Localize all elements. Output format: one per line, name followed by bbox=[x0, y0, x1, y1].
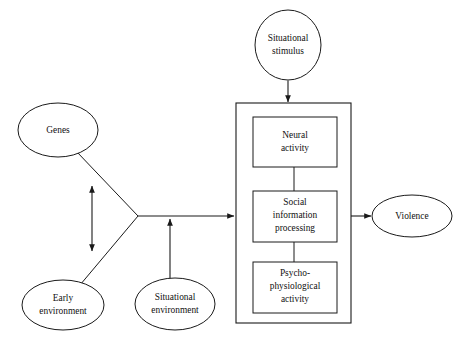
violence-label: Violence bbox=[395, 211, 428, 221]
social-information-processing-label-line1: Social bbox=[283, 197, 307, 207]
psycho-physiological-activity-label-line2: physiological bbox=[270, 281, 321, 291]
early-environment-label-line1: Early bbox=[53, 293, 74, 303]
situational-stimulus-label-line1: Situational bbox=[268, 33, 309, 43]
neural-activity-label-line1: Neural bbox=[282, 130, 308, 140]
diagram-root: Situational stimulus Genes Early environ… bbox=[0, 0, 464, 347]
situational-environment-ellipse bbox=[135, 278, 215, 330]
diagram-canvas: Situational stimulus Genes Early environ… bbox=[0, 0, 464, 347]
social-information-processing-label-line3: processing bbox=[275, 223, 315, 233]
node-violence[interactable]: Violence bbox=[372, 195, 452, 237]
early-environment-label-line2: environment bbox=[39, 306, 87, 316]
edge-early-environment-to-apex bbox=[80, 216, 138, 285]
psycho-physiological-activity-label-line3: activity bbox=[281, 294, 309, 304]
node-situational-environment[interactable]: Situational environment bbox=[135, 278, 215, 330]
neural-activity-box bbox=[253, 117, 337, 167]
node-situational-stimulus[interactable]: Situational stimulus bbox=[255, 10, 321, 80]
situational-stimulus-label-line2: stimulus bbox=[272, 46, 304, 56]
psycho-physiological-activity-label-line1: Psycho- bbox=[280, 268, 310, 278]
early-environment-ellipse bbox=[22, 280, 104, 330]
situational-environment-label-line1: Situational bbox=[155, 292, 196, 302]
situational-stimulus-ellipse bbox=[255, 10, 321, 80]
node-social-information-processing[interactable]: Social information processing bbox=[253, 191, 337, 242]
node-neural-activity[interactable]: Neural activity bbox=[253, 117, 337, 167]
node-genes[interactable]: Genes bbox=[18, 103, 98, 157]
edge-genes-to-apex bbox=[77, 152, 138, 216]
social-information-processing-label-line2: information bbox=[273, 210, 318, 220]
node-early-environment[interactable]: Early environment bbox=[22, 280, 104, 330]
situational-environment-label-line2: environment bbox=[151, 305, 199, 315]
genes-label: Genes bbox=[46, 125, 70, 135]
node-psycho-physiological-activity[interactable]: Psycho- physiological activity bbox=[253, 262, 337, 313]
neural-activity-label-line2: activity bbox=[281, 143, 309, 153]
